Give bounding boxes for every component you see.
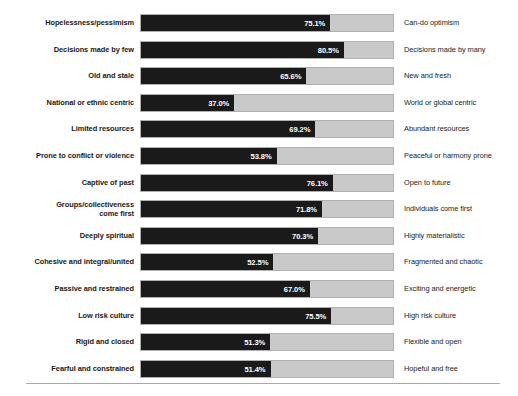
bar-value-label: 71.8% [296,201,317,219]
bar-value-label: 75.1% [304,15,325,33]
row-right-label: Fragmented and chaotic [404,257,518,266]
row-right-label: High risk culture [404,311,518,320]
row-left-label: Prone to conflict or violence [4,151,134,160]
bar-track: 53.8% [140,147,394,165]
bar-fill: 75.1% [141,15,330,31]
row-left-label: Rigid and closed [4,337,134,346]
chart-row: Low risk culture75.5%High risk culture [0,307,518,325]
footer-divider-rule [26,383,500,384]
bar-track: 69.2% [140,120,394,138]
chart-row: Deeply spiritual70.3%Highly materialisti… [0,227,518,245]
bar-value-label: 67.0% [284,281,305,299]
bar-value-label: 70.3% [292,228,313,246]
chart-row: Old and stale65.6%New and fresh [0,67,518,85]
bar-fill: 80.5% [141,42,344,58]
bar-value-label: 53.8% [251,148,272,166]
bar-track: 37.0% [140,94,394,112]
row-right-label: Individuals come first [404,204,518,213]
bar-fill: 76.1% [141,175,333,191]
row-left-label: Fearful and constrained [4,364,134,373]
row-right-label: World or global centric [404,98,518,107]
row-right-label: Highly materialistic [404,231,518,240]
bar-value-label: 75.5% [305,308,326,326]
row-left-label: Hopelessness/pessimism [4,18,134,27]
bar-fill: 52.5% [141,254,273,270]
bar-fill: 51.3% [141,334,270,350]
row-left-label: Passive and restrained [4,284,134,293]
bar-track: 51.4% [140,360,394,378]
row-left-label: Captive of past [4,178,134,187]
bar-track: 70.3% [140,227,394,245]
row-right-label: Hopeful and free [404,364,518,373]
row-right-label: Peaceful or harmony prone [404,151,518,160]
bar-track: 51.3% [140,333,394,351]
chart-row: Groups/collectiveness come first71.8%Ind… [0,200,518,218]
row-right-label: Decisions made by many [404,45,518,54]
row-left-label: Old and stale [4,71,134,80]
bar-value-label: 76.1% [307,175,328,193]
chart-row: Captive of past76.1%Open to future [0,174,518,192]
bar-track: 52.5% [140,253,394,271]
bar-track: 76.1% [140,174,394,192]
bar-track: 80.5% [140,41,394,59]
bar-fill: 70.3% [141,228,318,244]
chart-row: Hopelessness/pessimism75.1%Can-do optimi… [0,14,518,32]
chart-row: National or ethnic centric37.0%World or … [0,94,518,112]
row-left-label: Limited resources [4,124,134,133]
row-left-label: Deeply spiritual [4,231,134,240]
row-right-label: Exciting and energetic [404,284,518,293]
row-left-label: Groups/collectiveness come first [4,200,134,218]
chart-row: Fearful and constrained51.4%Hopeful and … [0,360,518,378]
bar-fill: 75.5% [141,308,331,324]
bar-track: 65.6% [140,67,394,85]
row-left-label: Cohesive and integral/united [4,257,134,266]
bar-value-label: 37.0% [208,95,229,113]
row-left-label: Low risk culture [4,311,134,320]
bar-fill: 37.0% [141,95,234,111]
chart-row: Cohesive and integral/united52.5%Fragmen… [0,253,518,271]
bar-fill: 67.0% [141,281,310,297]
bar-track: 75.1% [140,14,394,32]
bar-fill: 53.8% [141,148,277,164]
row-left-label: National or ethnic centric [4,98,134,107]
row-right-label: New and fresh [404,71,518,80]
chart-row: Limited resources69.2%Abundant resources [0,120,518,138]
diverging-bar-chart: Hopelessness/pessimism75.1%Can-do optimi… [0,0,518,396]
row-left-label: Decisions made by few [4,45,134,54]
bar-value-label: 65.6% [280,68,301,86]
bar-value-label: 80.5% [318,42,339,60]
bar-value-label: 51.4% [244,361,265,379]
bar-fill: 51.4% [141,361,271,377]
bar-track: 71.8% [140,200,394,218]
row-right-label: Abundant resources [404,124,518,133]
bar-value-label: 69.2% [289,121,310,139]
chart-row: Passive and restrained67.0%Exciting and … [0,280,518,298]
bar-track: 67.0% [140,280,394,298]
chart-row: Prone to conflict or violence53.8%Peacef… [0,147,518,165]
row-right-label: Open to future [404,178,518,187]
bar-value-label: 52.5% [247,254,268,272]
bar-track: 75.5% [140,307,394,325]
row-right-label: Can-do optimism [404,18,518,27]
bar-fill: 65.6% [141,68,306,84]
bar-fill: 71.8% [141,201,322,217]
row-right-label: Flexible and open [404,337,518,346]
chart-row: Rigid and closed51.3%Flexible and open [0,333,518,351]
bar-value-label: 51.3% [244,334,265,352]
chart-row: Decisions made by few80.5%Decisions made… [0,41,518,59]
bar-fill: 69.2% [141,121,315,137]
